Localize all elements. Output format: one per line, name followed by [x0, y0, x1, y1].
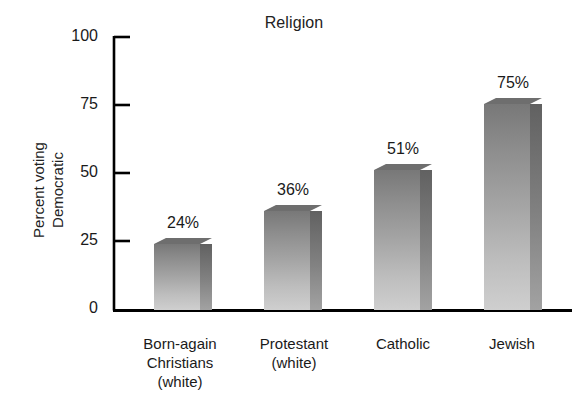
bar-value-label-3: 51% — [363, 140, 443, 158]
bar-catholic — [374, 164, 432, 310]
bar-side-face — [420, 170, 432, 310]
bar-chart: Religion Percent voting Democratic 100 7… — [0, 0, 588, 403]
bar-value-label-4: 75% — [473, 74, 553, 92]
bar-front-face — [154, 244, 200, 310]
bar-value-label-2: 36% — [253, 181, 333, 199]
category-line: Jewish — [457, 334, 567, 353]
x-category-label-protestant: Protestant (white) — [234, 334, 354, 372]
category-line: Catholic — [348, 334, 458, 353]
x-category-label-jewish: Jewish — [457, 334, 567, 353]
bar-side-face — [530, 104, 542, 310]
bar-front-face — [374, 170, 420, 310]
bar-jewish — [484, 98, 542, 310]
bar-front-face — [484, 104, 530, 310]
x-category-label-born-again-christians: Born-again Christians (white) — [113, 334, 247, 391]
category-line: Protestant — [234, 334, 354, 353]
bar-front-face — [264, 211, 310, 310]
bar-born-again-christians — [154, 238, 212, 310]
category-line: Christians — [113, 353, 247, 372]
bar-side-face — [310, 211, 322, 310]
category-line: (white) — [113, 372, 247, 391]
bar-value-label-1: 24% — [143, 214, 223, 232]
bar-side-face — [200, 244, 212, 310]
category-line: (white) — [234, 353, 354, 372]
x-category-label-catholic: Catholic — [348, 334, 458, 353]
category-line: Born-again — [113, 334, 247, 353]
bar-protestant — [264, 205, 322, 310]
